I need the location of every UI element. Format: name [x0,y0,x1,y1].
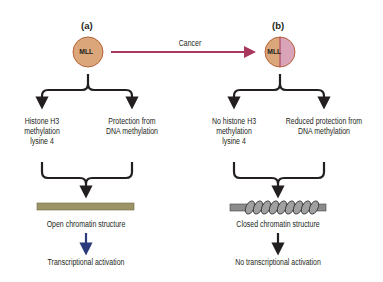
panel-label-a: (a) [81,20,93,31]
mll-text-a: MLL [79,47,93,56]
merge-arrow-b [234,162,324,192]
merge-arrow-a [42,162,132,192]
outcome-a: Transcriptional activation [33,257,140,267]
chromatin-label-b: Closed chromatin structure [229,219,327,229]
branch-right-a: Protection from DNA methylation [95,116,169,136]
branch-arrows-a [42,74,132,103]
branch-arrows-b [234,74,324,103]
branch-left-b: No histone H3 methylation lysine 4 [201,116,267,146]
panel-label-b: (b) [272,20,284,31]
closed-chromatin-coil [230,199,326,215]
chromatin-label-a: Open chromatin structure [37,219,135,229]
branch-right-b: Reduced protection from DNA methylation [279,116,369,136]
branch-left-a: Histone H3 methylation lysine 4 [9,116,75,146]
outcome-b: No transcriptional activation [221,257,336,267]
cancer-label: Cancer [161,38,218,48]
open-chromatin-bar [37,203,134,210]
mll-text-b: MLL [267,47,281,56]
